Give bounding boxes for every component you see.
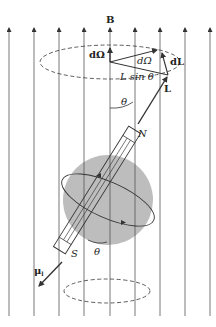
north-pole-label: N: [137, 128, 148, 139]
theta-label-bottom: θ: [94, 246, 100, 257]
d-omega-angle-label: dΩ: [137, 55, 152, 66]
precession-diagram: B dΩ dΩ L sin θ dL θ L N S θ μl: [0, 0, 216, 327]
magnetic-moment-label: μl: [34, 265, 44, 277]
d-omega-vector-label: dΩ: [89, 49, 105, 60]
d-l-arrow: [162, 53, 168, 75]
l-sin-theta-label: L sin θ: [119, 71, 154, 82]
precession-circle-bottom: [64, 279, 150, 303]
south-pole-label: S: [71, 248, 78, 259]
angular-momentum-label: L: [164, 83, 171, 94]
field-label-b: B: [106, 14, 114, 25]
angular-momentum-arrow: [138, 77, 167, 124]
d-l-label: dL: [170, 56, 184, 67]
theta-label-top: θ: [121, 96, 127, 107]
